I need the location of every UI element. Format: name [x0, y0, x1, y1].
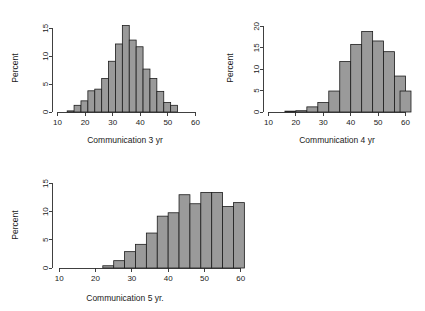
histogram-bar — [95, 89, 102, 112]
x-tick-label: 40 — [164, 274, 173, 283]
histogram-bar — [157, 216, 168, 268]
histogram-bar — [125, 252, 136, 268]
histogram-bar — [318, 103, 329, 112]
y-tick-label: 20 — [252, 21, 261, 30]
y-tick-label: 0 — [41, 109, 50, 114]
y-axis-0 — [49, 28, 53, 112]
plot-bars-0 — [67, 26, 177, 112]
histogram-bar — [146, 233, 157, 268]
x-tick-label: 60 — [236, 274, 245, 283]
y-tick-label: 5 — [252, 88, 261, 93]
histogram-bar — [129, 40, 136, 112]
x-tick-label: 60 — [401, 118, 410, 127]
histogram-communication-4yr: 05101520 102030405060 Percent Communicat… — [215, 0, 425, 155]
histogram-bar — [168, 213, 179, 268]
x-axis-1 — [268, 112, 405, 116]
histogram-bar — [362, 32, 373, 112]
x-tick-label: 30 — [108, 118, 117, 127]
histogram-bar — [88, 91, 95, 112]
y-tick-label: 5 — [41, 81, 50, 86]
x-tick-labels-0: 102030405060 — [53, 118, 200, 127]
y-tick-label: 15 — [252, 43, 261, 52]
x-tick-label: 50 — [200, 274, 209, 283]
y-tick-label: 5 — [41, 237, 50, 242]
x-tick-label: 60 — [191, 118, 200, 127]
y-tick-label: 15 — [41, 178, 50, 187]
x-axis-title-0: Communication 3 yr — [87, 135, 163, 145]
y-axis-2 — [49, 183, 53, 268]
x-tick-label: 10 — [264, 118, 273, 127]
histogram-bar — [351, 44, 362, 112]
chart-panel-communication-5yr: 051015 102030405060 Percent Communicatio… — [0, 155, 280, 311]
x-tick-label: 40 — [136, 118, 145, 127]
histogram-bar — [74, 105, 81, 112]
x-tick-label: 20 — [81, 118, 90, 127]
y-axis-title-2: Percent — [10, 210, 20, 240]
histogram-bar — [400, 91, 411, 112]
y-tick-label: 10 — [252, 64, 261, 73]
y-tick-labels-2: 051015 — [41, 178, 50, 270]
y-tick-label: 0 — [41, 265, 50, 270]
three-panel-histogram-figure: 051015 102030405060 Percent Communicatio… — [0, 0, 425, 311]
x-tick-labels-1: 102030405060 — [264, 118, 410, 127]
y-axis-title-0: Percent — [10, 53, 20, 83]
histogram-bar — [329, 91, 340, 112]
histogram-bar — [81, 101, 88, 112]
x-tick-label: 20 — [291, 118, 300, 127]
chart-panel-communication-3yr: 051015 102030405060 Percent Communicatio… — [0, 0, 215, 155]
histogram-bar — [307, 107, 318, 112]
x-tick-label: 40 — [346, 118, 355, 127]
x-tick-label: 10 — [53, 118, 62, 127]
histogram-bar — [135, 244, 146, 268]
histogram-bar — [109, 61, 116, 112]
histogram-bar — [143, 69, 150, 112]
x-tick-label: 10 — [55, 274, 64, 283]
histogram-bar — [122, 26, 129, 112]
histogram-bar — [373, 41, 384, 112]
x-axis-title-2: Communication 5 yr. — [86, 293, 163, 303]
histogram-bar — [114, 261, 125, 268]
histogram-bar — [157, 91, 164, 112]
histogram-bar — [190, 204, 201, 268]
histogram-bar — [233, 203, 244, 268]
histogram-communication-3yr: 051015 102030405060 Percent Communicatio… — [0, 0, 215, 155]
histogram-bar — [340, 62, 351, 112]
y-tick-labels-0: 051015 — [41, 23, 50, 114]
histogram-bar — [201, 192, 212, 268]
histogram-bar — [136, 47, 143, 112]
x-axis-2 — [59, 268, 240, 272]
histogram-bar — [102, 79, 109, 112]
histogram-bar — [223, 207, 234, 268]
x-tick-label: 20 — [91, 274, 100, 283]
plot-bars-1 — [285, 32, 411, 112]
histogram-bar — [115, 44, 122, 112]
x-axis-title-1: Communication 4 yr — [299, 135, 375, 145]
y-tick-label: 10 — [41, 51, 50, 60]
x-tick-label: 50 — [374, 118, 383, 127]
x-tick-label: 30 — [127, 274, 136, 283]
x-tick-label: 30 — [319, 118, 328, 127]
plot-bars-2 — [103, 192, 245, 268]
histogram-bar — [179, 195, 190, 268]
histogram-bar — [150, 79, 157, 112]
y-tick-labels-1: 05101520 — [252, 21, 261, 114]
x-axis-0 — [58, 112, 196, 116]
y-tick-label: 0 — [252, 109, 261, 114]
histogram-bar — [164, 103, 171, 112]
x-tick-labels-2: 102030405060 — [55, 274, 246, 283]
histogram-bar — [171, 105, 178, 112]
chart-panel-communication-4yr: 05101520 102030405060 Percent Communicat… — [215, 0, 425, 155]
y-tick-label: 15 — [41, 23, 50, 32]
histogram-bar — [384, 52, 395, 112]
histogram-bar — [212, 192, 223, 268]
x-tick-label: 50 — [163, 118, 172, 127]
y-axis-title-1: Percent — [225, 53, 235, 83]
histogram-communication-5yr: 051015 102030405060 Percent Communicatio… — [0, 155, 280, 311]
y-tick-label: 10 — [41, 207, 50, 216]
